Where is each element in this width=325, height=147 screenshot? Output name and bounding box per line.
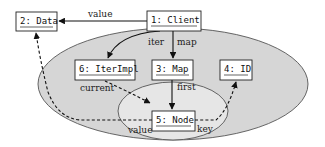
node-id: 4: ID bbox=[220, 60, 252, 80]
edge-label-map: map bbox=[177, 37, 197, 47]
node-node: 5: Node bbox=[152, 111, 195, 131]
node-client-label: 1: Client bbox=[151, 15, 200, 25]
node-iterimpl: 6: IterImpl bbox=[75, 60, 139, 80]
object-diagram: value iter map first current value key 1… bbox=[0, 0, 325, 147]
edge-client-data: value bbox=[59, 9, 147, 21]
edge-label-current: current bbox=[80, 83, 115, 93]
edge-label-first: first bbox=[177, 82, 196, 92]
node-data-label: 2: Data bbox=[20, 16, 58, 26]
edge-label-value-bottom: value bbox=[127, 125, 152, 135]
edge-label-key: key bbox=[197, 124, 214, 134]
node-node-label: 5: Node bbox=[156, 115, 194, 125]
node-iterimpl-label: 6: IterImpl bbox=[79, 64, 139, 74]
node-id-label: 4: ID bbox=[224, 64, 251, 74]
node-map: 3: Map bbox=[152, 60, 193, 80]
node-client: 1: Client bbox=[147, 11, 201, 31]
node-data: 2: Data bbox=[16, 12, 58, 31]
edge-label-value-top: value bbox=[87, 9, 112, 19]
edge-label-iter: iter bbox=[148, 37, 165, 47]
node-map-label: 3: Map bbox=[156, 64, 189, 74]
